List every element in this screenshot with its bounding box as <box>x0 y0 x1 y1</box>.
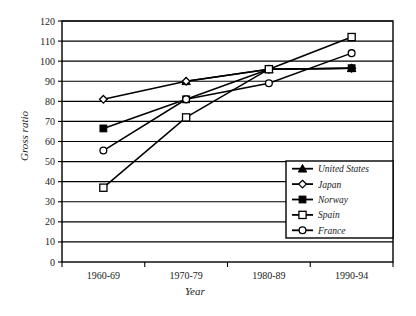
y-tick-label: 120 <box>40 16 55 27</box>
x-tick-label: 1960-69 <box>87 270 120 281</box>
legend-marker <box>299 196 306 203</box>
data-point-marker <box>348 65 355 72</box>
y-tick-label: 20 <box>45 216 55 227</box>
data-point-marker <box>183 114 190 121</box>
legend-label: Japan <box>318 180 341 190</box>
y-axis-label: Gross ratio <box>18 96 30 176</box>
y-tick-label: 70 <box>45 116 55 127</box>
x-axis-ticks: 1960-691970-791980-891990-94 <box>62 262 393 281</box>
data-point-marker <box>100 147 107 154</box>
y-tick-label: 10 <box>45 236 55 247</box>
data-point-marker <box>183 96 190 103</box>
data-point-marker <box>100 125 107 132</box>
data-point-marker <box>100 96 108 104</box>
legend: United StatesJapanNorwaySpainFrance <box>286 161 393 238</box>
x-axis-label: Year <box>185 285 205 297</box>
chart-figure: 0102030405060708090100110120 1960-691970… <box>0 0 416 316</box>
y-tick-label: 40 <box>45 176 55 187</box>
x-tick-label: 1990-94 <box>335 270 368 281</box>
y-tick-label: 60 <box>45 136 55 147</box>
data-point-marker <box>265 66 272 73</box>
data-point-marker <box>265 80 272 87</box>
legend-label: France <box>317 226 345 236</box>
data-point-marker <box>348 50 355 57</box>
legend-marker <box>299 227 306 234</box>
legend-label: United States <box>318 164 369 174</box>
y-tick-label: 100 <box>40 56 55 67</box>
y-tick-label: 80 <box>45 96 55 107</box>
y-tick-label: 50 <box>45 156 55 167</box>
y-axis-ticks: 0102030405060708090100110120 <box>40 16 62 268</box>
line-chart: 0102030405060708090100110120 1960-691970… <box>0 0 416 316</box>
y-tick-label: 30 <box>45 196 55 207</box>
data-point-marker <box>348 33 355 40</box>
series-line <box>103 68 351 128</box>
legend-marker <box>299 211 306 218</box>
x-tick-label: 1970-79 <box>169 270 202 281</box>
data-point-marker <box>100 184 107 191</box>
y-tick-label: 0 <box>50 257 55 268</box>
y-tick-label: 90 <box>45 76 55 87</box>
x-tick-label: 1980-89 <box>252 270 285 281</box>
legend-label: Norway <box>317 195 349 205</box>
legend-label: Spain <box>318 210 340 220</box>
y-tick-label: 110 <box>40 36 55 47</box>
